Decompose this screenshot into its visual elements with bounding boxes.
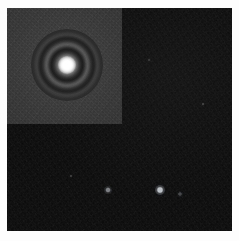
psf-zoom-inset (7, 8, 122, 124)
frame-border-top (0, 0, 239, 8)
dark-sky-field (7, 8, 232, 231)
inset-background (7, 8, 122, 124)
frame-border-right (232, 0, 239, 241)
frame-border-bottom (0, 231, 239, 241)
figure-root (0, 0, 239, 241)
frame-border-left (0, 0, 7, 241)
